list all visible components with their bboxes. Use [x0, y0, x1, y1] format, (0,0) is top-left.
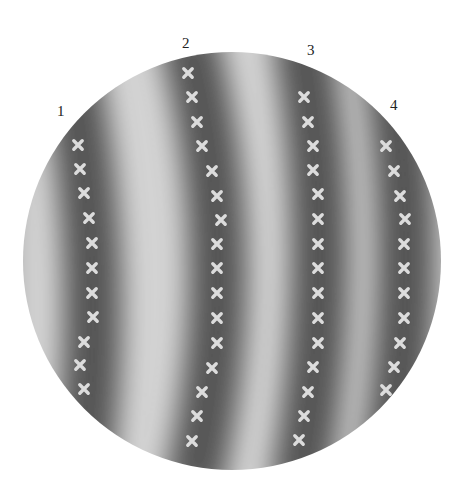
fringe-diagram [0, 0, 454, 489]
dark-fringe-1 [62, 32, 93, 489]
fringe-label-1: 1 [57, 104, 65, 119]
circular-aperture [0, 0, 454, 489]
fringe-label-3: 3 [307, 43, 315, 58]
fringe-label-2: 2 [182, 36, 190, 51]
fringe-label-4: 4 [390, 98, 398, 113]
